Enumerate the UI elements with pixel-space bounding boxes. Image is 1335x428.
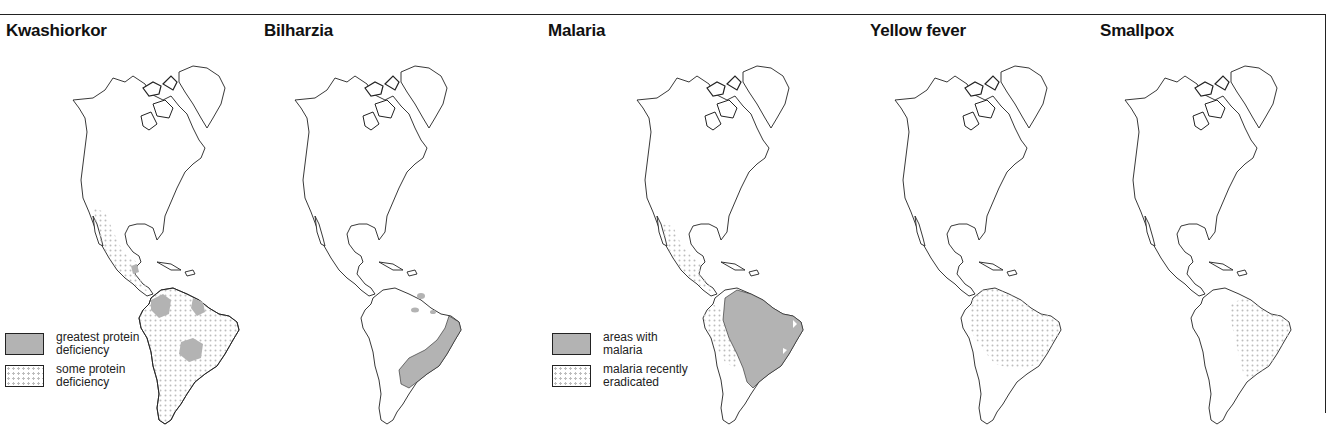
panel-yellow-fever: Yellow fever bbox=[870, 14, 1100, 413]
dark-swatch-icon bbox=[5, 333, 44, 355]
panel-title: Malaria bbox=[548, 21, 605, 41]
panel-title: Bilharzia bbox=[264, 21, 333, 41]
legend-label: greatest protein deficiency bbox=[56, 331, 166, 357]
legend-item-areas-with-malaria: areas with malaria bbox=[552, 331, 713, 357]
panel-malaria: Malaria areas with malaria malaria recen… bbox=[540, 14, 870, 413]
panel-bilharzia: Bilharzia bbox=[250, 14, 540, 413]
panel-smallpox: Smallpox bbox=[1100, 14, 1325, 413]
legend-item-recently-eradicated: malaria recently eradicated bbox=[552, 363, 713, 389]
legend: areas with malaria malaria recently erad… bbox=[552, 331, 713, 395]
legend: greatest protein deficiency some protein… bbox=[5, 331, 166, 395]
americas-map-smallpox bbox=[1100, 48, 1330, 428]
dotted-swatch-icon bbox=[552, 365, 591, 387]
panel-title: Smallpox bbox=[1100, 21, 1174, 41]
panel-title: Kwashiorkor bbox=[6, 21, 107, 41]
legend-label: areas with malaria bbox=[603, 331, 683, 357]
americas-map-yellow-fever bbox=[870, 48, 1100, 428]
dotted-swatch-icon bbox=[5, 365, 44, 387]
panel-title: Yellow fever bbox=[870, 21, 966, 41]
legend-item-some-deficiency: some protein deficiency bbox=[5, 363, 166, 389]
americas-map-bilharzia bbox=[270, 48, 500, 428]
panel-kwashiorkor: Kwashiorkor greatest protein deficiency … bbox=[0, 14, 250, 413]
dark-swatch-icon bbox=[552, 333, 591, 355]
legend-label: some protein deficiency bbox=[56, 363, 166, 389]
legend-item-greatest-deficiency: greatest protein deficiency bbox=[5, 331, 166, 357]
legend-label: malaria recently eradicated bbox=[603, 363, 713, 389]
